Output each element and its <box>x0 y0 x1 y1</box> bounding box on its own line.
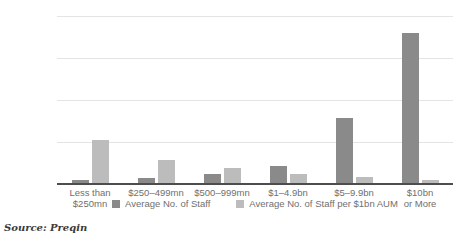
bar <box>336 118 353 184</box>
bar <box>92 140 109 184</box>
bar-group <box>123 16 189 184</box>
plot-area <box>57 16 453 184</box>
bar-group <box>255 16 321 184</box>
legend-swatch-icon <box>236 200 244 208</box>
legend-label: Average No. of Staff <box>125 198 210 209</box>
bar-groups <box>57 16 453 184</box>
bar-group <box>57 16 123 184</box>
bar <box>224 168 241 184</box>
legend-item[interactable]: Average No. of Staff <box>112 198 210 209</box>
bar <box>270 166 287 184</box>
chart-container: Number of Staff 0.75.150.225.300. Less t… <box>0 0 460 242</box>
y-axis-title-wrap: Number of Staff <box>14 16 28 184</box>
bar-group <box>189 16 255 184</box>
bar <box>402 33 419 184</box>
bar <box>158 160 175 184</box>
legend-label: Average No. of Staff per $1bn AUM <box>249 198 398 209</box>
bar-group <box>321 16 387 184</box>
legend-swatch-icon <box>112 200 120 208</box>
chart-legend: Average No. of StaffAverage No. of Staff… <box>57 198 453 209</box>
bar-group <box>387 16 453 184</box>
source-note: Source: Preqin <box>4 222 87 233</box>
legend-item[interactable]: Average No. of Staff per $1bn AUM <box>236 198 398 209</box>
x-axis-line <box>57 183 453 185</box>
